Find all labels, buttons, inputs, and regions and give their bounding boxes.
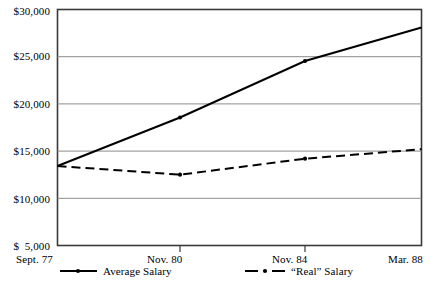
plot-frame: [58, 10, 422, 246]
x-axis-tick-label-sept-77: Sept. 77: [16, 254, 53, 265]
legend-marker-real-salary: [263, 269, 267, 273]
data-point-average-salary-nov-84: [303, 59, 307, 63]
x-axis-tick-label-nov-84: Nov. 84: [272, 254, 307, 265]
series-line-real-salary: [58, 149, 422, 175]
salary-line-chart: $30,000 $25,000 $20,000 $15,000 $10,000 …: [0, 0, 431, 287]
x-axis-tick-label-mar-88: Mar. 88: [388, 254, 423, 265]
legend-marker-average-salary: [76, 269, 80, 273]
legend-label-real-salary: “Real” Salary: [291, 266, 353, 277]
data-point-real-salary-nov-84: [303, 157, 307, 161]
legend-label-average-salary: Average Salary: [103, 266, 172, 277]
data-point-average-salary-nov-80: [178, 115, 182, 119]
series-line-average-salary: [58, 28, 422, 167]
x-axis-tick-label-nov-80: Nov. 80: [147, 254, 182, 265]
plot-area: [0, 0, 431, 287]
data-point-real-salary-nov-80: [178, 173, 182, 177]
